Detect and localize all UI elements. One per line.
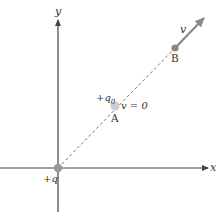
test-charge-label: +q0	[96, 92, 116, 106]
y-axis-label: y	[54, 5, 62, 18]
point-b-label: B	[171, 52, 179, 64]
source-charge-label: +q	[43, 173, 58, 184]
x-axis-label: x	[210, 161, 217, 174]
point-a-label: A	[110, 112, 119, 124]
velocity-label-a: v = 0	[121, 100, 148, 111]
point-b-charge	[171, 44, 178, 51]
velocity-label-b: v	[180, 23, 187, 36]
charge-motion-diagram: y x v +q +q0 v = 0 A B	[0, 0, 219, 221]
source-charge	[54, 164, 62, 172]
